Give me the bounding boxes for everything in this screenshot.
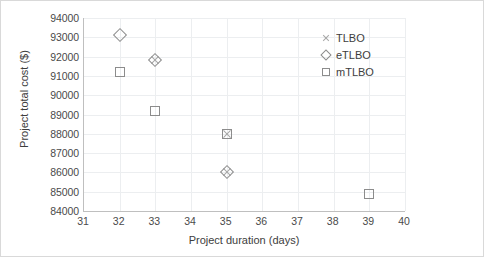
square-marker-icon [364,189,374,199]
x-axis-tick-labels: 31323334353637383940 [83,216,405,232]
x-tick-label: 40 [391,216,417,227]
x-tick-label: 34 [177,216,203,227]
legend-label: eTLBO [336,49,371,61]
x-marker-icon [322,34,330,42]
legend-marker [319,66,333,78]
gridline-horizontal [84,115,405,116]
gridline-horizontal [84,95,405,96]
legend-marker [319,32,333,44]
y-tick-label: 87000 [31,148,79,158]
gridline-horizontal [84,192,405,193]
y-tick-label: 88000 [31,129,79,139]
y-axis-tick-labels: 8400085000860008700088000890009000091000… [27,18,79,212]
y-tick-label: 94000 [31,13,79,23]
y-tick-label: 90000 [31,90,79,100]
y-axis-title: Project total cost ($) [18,14,30,184]
legend-marker [319,49,333,61]
square-marker-icon [150,106,160,116]
gridline-horizontal [84,18,405,19]
square-marker-icon [115,67,125,77]
x-tick-label: 39 [355,216,381,227]
chart-figure: 8400085000860008700088000890009000091000… [0,0,484,257]
y-tick-label: 84000 [31,206,79,216]
y-tick-label: 89000 [31,110,79,120]
x-axis-title: Project duration (days) [83,234,405,246]
x-tick-label: 32 [106,216,132,227]
x-tick-label: 31 [70,216,96,227]
legend-item-etlbo[interactable]: eTLBO [319,46,411,63]
legend-item-mtlbo[interactable]: mTLBO [319,63,411,80]
x-tick-label: 36 [248,216,274,227]
diamond-marker-icon [113,28,127,42]
chart-legend: TLBOeTLBOmTLBO [319,29,411,80]
legend-label: TLBO [336,32,365,44]
square-marker-icon [322,68,330,76]
y-tick-label: 91000 [31,71,79,81]
y-tick-label: 92000 [31,52,79,62]
diamond-marker-icon [320,49,331,60]
gridline-horizontal [84,153,405,154]
legend-label: mTLBO [336,66,374,78]
y-tick-label: 86000 [31,167,79,177]
square-marker-icon [222,129,232,139]
x-tick-label: 38 [320,216,346,227]
x-tick-label: 35 [213,216,239,227]
gridline-horizontal [84,134,405,135]
gridline-horizontal [84,172,405,173]
y-tick-label: 93000 [31,32,79,42]
x-tick-label: 37 [284,216,310,227]
x-tick-label: 33 [141,216,167,227]
legend-item-tlbo[interactable]: TLBO [319,29,411,46]
y-tick-label: 85000 [31,187,79,197]
